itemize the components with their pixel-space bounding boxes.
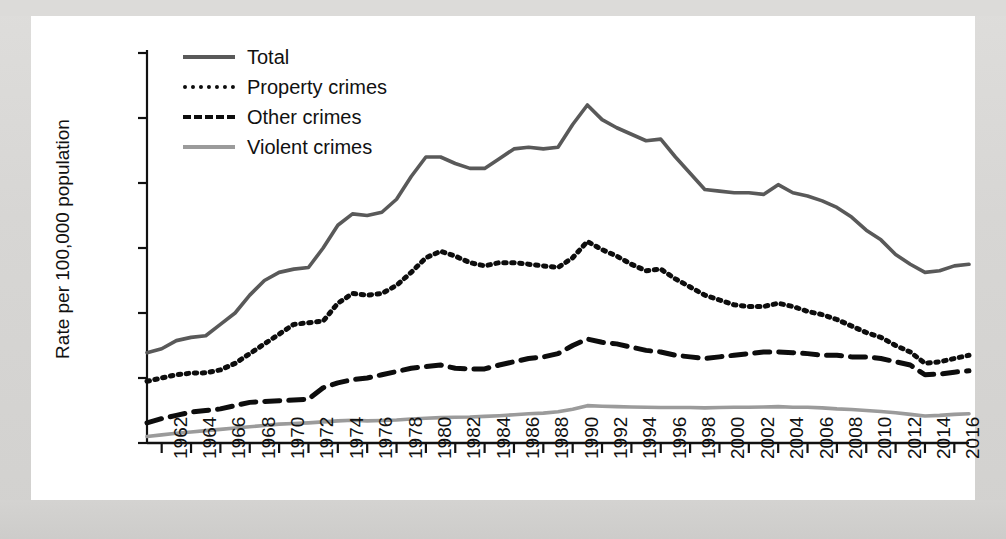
x-axis-tick-label: 1966 [228,417,250,459]
x-axis-tick-label: 2012 [904,417,926,459]
x-axis-tick-label: 2002 [757,417,779,459]
legend-item-total: Total [183,42,387,72]
x-axis-tick-label: 1968 [258,417,280,459]
legend-swatch-icon [183,138,235,156]
x-axis-tick-label: 1986 [522,417,544,459]
x-axis-tick-label: 1988 [551,417,573,459]
plot-area: 12,00010,0008,0006,0004,0002,0000 Rate p… [31,16,975,500]
x-axis-tick-label: 1982 [463,417,485,459]
background-band-top [0,0,1006,16]
x-axis-tick-label: 1998 [698,417,720,459]
x-axis-tick-label: 1990 [581,417,603,459]
x-axis-tick-label: 2008 [845,417,867,459]
legend-swatch-icon [183,108,235,126]
x-axis-tick-label: 2000 [727,417,749,459]
x-axis-tick-label: 2004 [786,417,808,459]
x-axis-tick-label: 1984 [493,417,515,459]
x-axis-tick-label: 2010 [874,417,896,459]
legend-item-label: Property crimes [247,76,387,99]
y-axis-title: Rate per 100,000 population [52,39,74,439]
legend-swatch-icon [183,78,235,96]
x-axis-tick-label: 1994 [639,417,661,459]
x-axis-tick-label: 1976 [375,417,397,459]
x-axis-tick-label: 2016 [962,417,984,459]
legend-item-other-crimes: Other crimes [183,102,387,132]
x-axis-tick-label: 2014 [933,417,955,459]
background-band-bottom [0,500,1006,539]
y-axis-tick-labels: 12,00010,0008,0006,0004,0002,0000 [31,16,143,500]
legend-swatch-icon [183,48,235,66]
chart-panel: 12,00010,0008,0006,0004,0002,0000 Rate p… [31,16,975,500]
legend-item-violent-crimes: Violent crimes [183,132,387,162]
x-axis-tick-label: 1962 [170,417,192,459]
screenshot-root: 12,00010,0008,0006,0004,0002,0000 Rate p… [0,0,1006,539]
chart-legend: TotalProperty crimesOther crimesViolent … [183,42,387,162]
legend-item-label: Total [247,46,289,69]
x-axis-tick-label: 2006 [816,417,838,459]
x-axis-tick-label: 1970 [287,417,309,459]
legend-item-label: Violent crimes [247,136,372,159]
x-axis-tick-label: 1974 [346,417,368,459]
series-line-property-crimes [147,242,969,382]
x-axis-tick-label: 1964 [199,417,221,459]
legend-item-label: Other crimes [247,106,361,129]
x-axis-tick-label: 1996 [669,417,691,459]
x-axis-tick-label: 1992 [610,417,632,459]
legend-item-property-crimes: Property crimes [183,72,387,102]
x-axis-tick-label: 1978 [405,417,427,459]
x-axis-tick-label: 1972 [316,417,338,459]
x-axis-tick-label: 1980 [434,417,456,459]
